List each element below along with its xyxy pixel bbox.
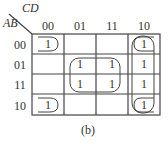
cell-01-00: [32, 54, 64, 74]
row-var-label: AB: [3, 17, 18, 29]
cell-10-11: [96, 95, 128, 115]
cell-11-11: 1: [96, 74, 128, 94]
col-header: 01: [64, 20, 96, 32]
cell-00-11: [96, 34, 128, 54]
col-var-label: CD: [22, 2, 39, 14]
cell-10-00: 1: [32, 95, 64, 115]
col-header: 00: [32, 20, 64, 32]
cell-10-10: 1: [128, 95, 160, 115]
col-header: 11: [96, 20, 128, 32]
cell-01-11: 1: [96, 54, 128, 74]
cell-01-01: 1: [64, 54, 96, 74]
row-header: 11: [10, 79, 30, 91]
cell-01-10: 1: [128, 54, 160, 74]
cell-00-10: 1: [128, 34, 160, 54]
cell-10-01: [64, 95, 96, 115]
cell-11-10: 1: [128, 74, 160, 94]
caption: (b): [72, 124, 104, 136]
cell-00-01: [64, 34, 96, 54]
col-header: 10: [128, 20, 160, 32]
row-header: 01: [10, 59, 30, 71]
cell-11-00: [32, 74, 64, 94]
cell-00-00: 1: [32, 34, 64, 54]
cell-11-01: 1: [64, 74, 96, 94]
row-header: 00: [10, 39, 30, 51]
row-header: 10: [10, 100, 30, 112]
